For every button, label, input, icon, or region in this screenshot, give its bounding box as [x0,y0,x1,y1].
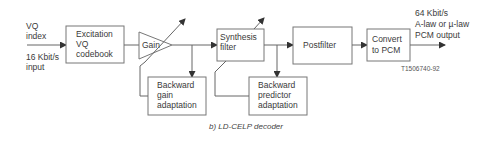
svg-text:Excitation: Excitation [76,29,113,39]
ld-celp-decoder-diagram: VQ index 16 Kbit/s input Excitation VQ c… [0,0,493,145]
gain-feedback-line [140,62,148,96]
figure-id: T1506740-92 [401,65,440,72]
output-label-1: 64 Kbit/s [415,8,448,18]
svg-text:codebook: codebook [76,49,114,59]
output-label-3: PCM output [415,30,461,40]
vq-index-label-1: VQ [26,21,39,31]
svg-text:Convert: Convert [372,34,402,44]
postfilter-block: Postfilter [293,27,352,64]
convert-to-pcm-block: Convert to PCM [367,29,410,61]
vq-index-label-2: index [26,31,47,41]
svg-text:filter: filter [220,42,236,52]
svg-text:Postfilter: Postfilter [303,40,336,50]
predictor-feedback-line [215,72,249,96]
synthesis-filter-block: Synthesis filter [217,29,264,61]
input-rate-label-1: 16 Kbit/s [26,52,59,62]
synthesis-adaptive-tail [215,61,226,72]
input-rate-label-2: input [26,62,45,72]
excitation-vq-codebook-block: Excitation VQ codebook [66,26,124,63]
svg-text:to PCM: to PCM [372,45,400,55]
svg-text:gain: gain [157,90,173,100]
svg-text:Synthesis: Synthesis [220,32,257,42]
svg-text:adaptation: adaptation [258,100,298,110]
svg-text:adaptation: adaptation [157,100,197,110]
synthesis-adaptive-arrow [254,18,264,29]
backward-predictor-adaptation-block: Backward predictor adaptation [249,77,307,115]
svg-text:predictor: predictor [258,90,291,100]
output-label-2: A-law or µ-law [415,19,470,29]
svg-text:VQ: VQ [76,39,89,49]
svg-text:Backward: Backward [258,80,296,90]
backward-gain-adaptation-block: Backward gain adaptation [148,77,206,115]
svg-text:Backward: Backward [157,80,195,90]
figure-caption: b) LD-CELP decoder [209,122,283,131]
gain-block: Gain [139,32,172,59]
